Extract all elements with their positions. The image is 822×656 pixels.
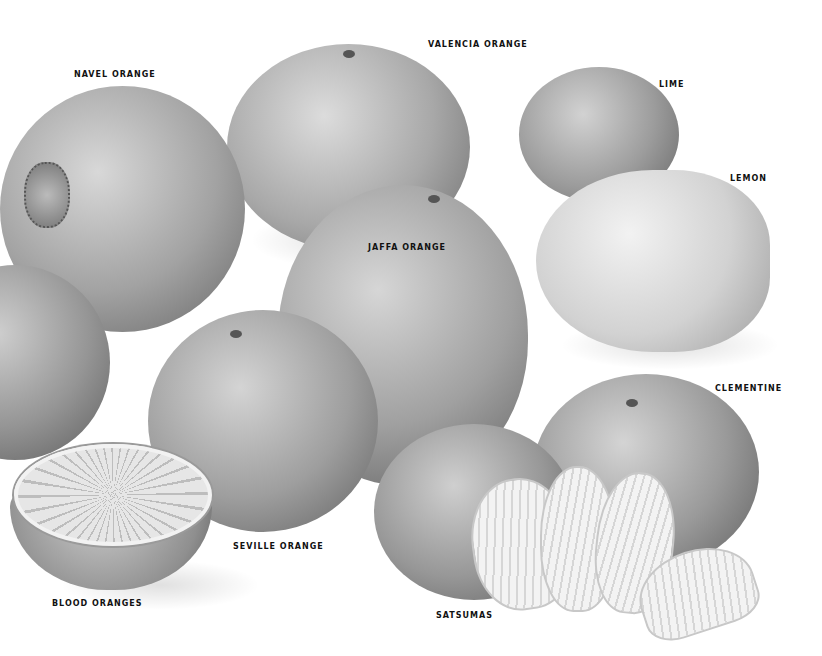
label-clementine: CLEMENTINE [715,384,782,393]
label-valencia-orange: VALENCIA ORANGE [428,40,528,49]
label-satsumas: SATSUMAS [436,611,493,620]
label-jaffa-orange: JAFFA ORANGE [368,243,446,252]
valencia-orange-stem [343,50,355,58]
label-lemon: LEMON [730,174,767,183]
navel-orange-navel [24,162,70,228]
citrus-illustration: NAVEL ORANGE VALENCIA ORANGE LIME LEMON … [0,0,822,656]
clementine-stem [626,399,638,407]
blood-orange-half-flesh [14,444,212,546]
label-navel-orange: NAVEL ORANGE [74,70,156,79]
jaffa-orange-stem [428,195,440,203]
seville-orange-stem [230,330,242,338]
label-lime: LIME [659,80,685,89]
label-blood-oranges: BLOOD ORANGES [52,599,143,608]
label-seville-orange: SEVILLE ORANGE [233,542,324,551]
lemon-fruit [536,170,770,352]
